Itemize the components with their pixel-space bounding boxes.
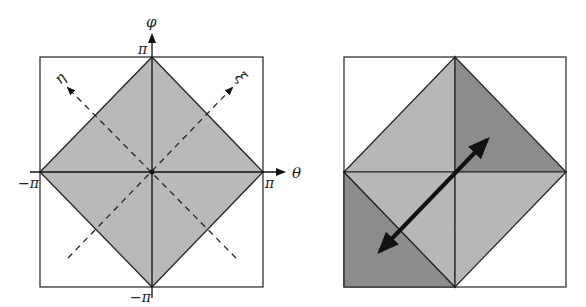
tick-left-neg-pi: −π (18, 175, 40, 191)
figure-canvas: φ θ η ξ π −π −π π (0, 0, 586, 307)
theta-label: θ (292, 164, 301, 182)
tick-right-pi: π (264, 175, 275, 191)
right-panel (344, 57, 566, 287)
left-panel: φ θ η ξ π −π −π π (18, 13, 301, 305)
tick-top-pi: π (137, 41, 148, 57)
origin-dot (150, 170, 155, 175)
tick-bottom-neg-pi: −π (130, 289, 152, 305)
phi-label: φ (146, 13, 157, 31)
